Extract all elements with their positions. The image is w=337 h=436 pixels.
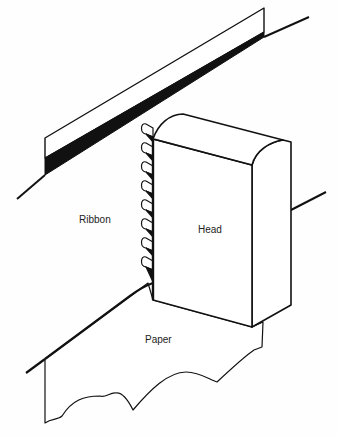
pin-2	[142, 143, 154, 161]
pin-5	[142, 200, 154, 218]
pin-4	[142, 181, 154, 199]
ribbon-right-edge	[291, 192, 326, 210]
print-head	[153, 114, 291, 327]
pin-1	[142, 124, 154, 142]
pin-8	[142, 257, 154, 282]
pin-6	[142, 219, 154, 237]
pin-7	[142, 238, 154, 256]
print-head-diagram: Ribbon Head Paper	[0, 0, 337, 436]
diagram-canvas: Ribbon Head Paper	[0, 0, 337, 436]
pin-3	[142, 162, 154, 180]
label-ribbon: Ribbon	[79, 214, 111, 225]
print-pins	[142, 124, 154, 282]
label-head: Head	[198, 224, 222, 235]
label-paper: Paper	[145, 334, 172, 345]
